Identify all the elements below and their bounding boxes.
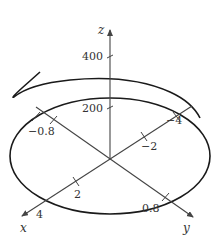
x-tick-label-4: 4 xyxy=(36,208,43,221)
x-tick-2 xyxy=(73,177,79,186)
y-tick-label-neg08: −0.8 xyxy=(28,125,55,138)
x-tick-label-neg2: −2 xyxy=(141,140,157,153)
z-tick-label-400: 400 xyxy=(82,50,103,63)
3d-curve-diagram: z 400 200 −4 −2 2 4 x −0.8 0.8 y xyxy=(0,0,217,239)
y-axis-label: y xyxy=(182,221,190,235)
z-axis-label: z xyxy=(97,23,105,37)
x-tick-label-neg4: −4 xyxy=(166,114,182,127)
y-tick-neg08 xyxy=(32,112,40,121)
x-tick-label-2: 2 xyxy=(74,188,81,201)
y-tick-label-08: 0.8 xyxy=(142,202,160,215)
x-axis-label: x xyxy=(20,221,27,235)
z-tick-label-200: 200 xyxy=(82,102,103,115)
